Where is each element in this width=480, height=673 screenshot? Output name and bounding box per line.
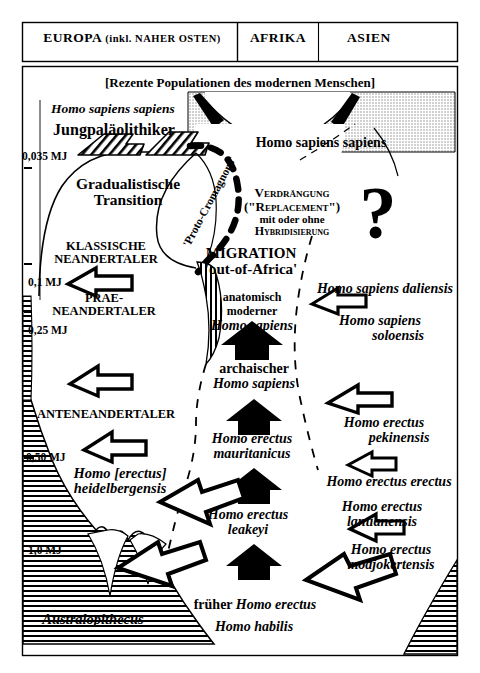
header-europa-sub: (inkl. NAHER OSTEN) (105, 33, 220, 44)
header-europa[interactable]: EUROPA (inkl. NAHER OSTEN) (32, 31, 232, 45)
label-europe-sapiens-sapiens: Homo sapiens sapiens (28, 102, 198, 116)
prae-line1: PRAE- (22, 292, 186, 305)
lantianensis-line2: lantianensis (302, 515, 462, 530)
header-afrika[interactable]: AFRIKA (238, 31, 318, 45)
pekinensis-line1: Homo erectus (304, 416, 464, 431)
modjokertensis-line2: modjokertensis (308, 558, 474, 573)
leakeyi-line1: Homo erectus (178, 508, 318, 523)
label-anatomisch-moderner: anatomisch moderner Homo sapiens (190, 290, 314, 335)
banner-recent-populations: [Rezente Populationen des modernen Mensc… (60, 76, 420, 89)
label-gradualistische-transition: Gradualistische Transition (48, 176, 208, 208)
prae-line2: NEANDERTALER (22, 305, 186, 318)
gradualistische-line1: Gradualistische (48, 176, 208, 192)
question-mark-icon: ? (350, 176, 406, 250)
label-frueher-erectus: früher Homo erectus (160, 598, 350, 612)
header-asien[interactable]: ASIEN (319, 31, 419, 45)
label-jungpalaeolithiker: Jungpaläolithiker (24, 122, 204, 138)
time-mark-0035: 0,035 MJ (22, 151, 92, 163)
figure-canvas: EUROPA (inkl. NAHER OSTEN) AFRIKA ASIEN … (0, 0, 480, 673)
modjokertensis-line1: Homo erectus (308, 543, 474, 558)
label-klassische-neandertaler: KLASSISCHE NEANDERTALER (24, 240, 188, 266)
label-modjokertensis: Homo erectus modjokertensis (308, 543, 474, 573)
label-homo-habilis: Homo habilis (164, 620, 344, 634)
migration-line2: 'out-of-Africa' (186, 262, 316, 278)
label-migration: MIGRATION 'out-of-Africa' (186, 246, 316, 278)
label-erectus-erectus: Homo erectus erectus (296, 475, 480, 489)
label-lantianensis: Homo erectus lantianensis (302, 500, 462, 530)
label-mauritanicus: Homo erectus mauritanicus (182, 432, 322, 462)
label-prae-neandertaler: PRAE- NEANDERTALER (22, 292, 186, 318)
verdraengung-line1: Verdrängung (230, 186, 354, 200)
time-mark-01: 0,1 MJ (28, 277, 88, 289)
klassische-line1: KLASSISCHE (24, 240, 188, 253)
label-australopithecus: Australopithecus (18, 612, 168, 627)
frueher-species: Homo erectus (236, 597, 317, 612)
migration-line1: MIGRATION (186, 246, 316, 262)
anatomisch-line3: Homo sapiens (190, 318, 314, 335)
gradualistische-line2: Transition (48, 192, 208, 208)
label-anteneandertaler: ANTENEANDERTALER (20, 408, 192, 421)
pekinensis-line2: pekinensis (304, 431, 464, 446)
klassische-line2: NEANDERTALER (24, 253, 188, 266)
soloensis-line1: Homo sapiens (300, 314, 460, 329)
time-mark-10: 1,0 MJ (28, 545, 88, 557)
heidelbergensis-line1: Homo [erectus] (50, 466, 190, 481)
frueher-prefix: früher (194, 597, 236, 612)
header-europa-main: EUROPA (43, 30, 101, 45)
label-leakeyi: Homo erectus leakeyi (178, 508, 318, 538)
label-center-sapiens-sapiens: Homo sapiens sapiens (226, 136, 416, 150)
anatomisch-line2: moderner (190, 304, 314, 318)
leakeyi-line2: leakeyi (178, 523, 318, 538)
mauritanicus-line1: Homo erectus (182, 432, 322, 447)
soloensis-line2: soloensis (300, 329, 460, 344)
label-verdraengung: Verdrängung ("Replacement") mit oder ohn… (230, 186, 354, 238)
lantianensis-line1: Homo erectus (302, 500, 462, 515)
label-heidelbergensis: Homo [erectus] heidelbergensis (50, 466, 190, 496)
archaischer-line2: Homo sapiens (188, 377, 320, 392)
heidelbergensis-line2: heidelbergensis (50, 481, 190, 496)
verdraengung-line2: ("Replacement") (230, 200, 354, 214)
label-pekinensis: Homo erectus pekinensis (304, 416, 464, 446)
label-daliensis: Homo sapiens daliensis (292, 282, 478, 296)
time-mark-025: 0,25 MJ (28, 325, 98, 337)
label-archaischer-sapiens: archaischer Homo sapiens (188, 362, 320, 391)
label-soloensis: Homo sapiens soloensis (300, 314, 460, 344)
time-mark-050: 0,50 MJ (26, 452, 96, 464)
verdraengung-line4: Hybridisierung (230, 225, 354, 238)
archaischer-line1: archaischer (188, 362, 320, 377)
mauritanicus-line2: mauritanicus (182, 447, 322, 462)
